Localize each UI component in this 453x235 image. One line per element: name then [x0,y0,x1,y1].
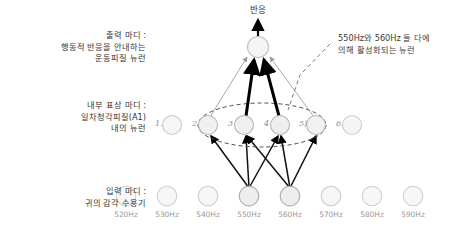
hidden-node-number-1: 1. [155,119,163,128]
input-nodes[interactable] [116,186,423,206]
hidden-layer-label-line2: 일차청각피질(A1) [0,112,146,124]
annotation-line2: 의해 활성화되는 뉴런 [338,45,453,57]
annotation-line1: 550Hz와 560Hz 둘 다에 [338,33,453,45]
input-node-560hz[interactable] [280,186,300,206]
hidden-node-number-5: 5) [299,119,307,128]
output-node[interactable] [248,37,269,58]
output-layer-label-line1: 출력 마디 : [0,30,146,42]
output-layer-label-line3: 운동피질 뉴런 [0,53,146,65]
input-node-530hz[interactable] [157,186,177,206]
frequency-label-590hz: 590Hz [396,210,430,219]
frequency-label-560hz: 560Hz [273,210,307,219]
input-node-570hz[interactable] [321,186,341,206]
edges-hidden-to-output [210,57,314,117]
input-layer-label-line2: 귀의 감각 수용기 [0,198,146,210]
input-node-540hz[interactable] [198,186,218,206]
input-node-550hz[interactable] [239,186,259,206]
input-layer-label-line1: 입력 마디 : [0,186,146,198]
hidden-node-number-4: 4 [264,119,269,128]
annotation-text: 550Hz와 560Hz 둘 다에 의해 활성화되는 뉴런 [338,33,453,56]
edges-input-to-hidden [211,136,316,188]
hidden-layer-label: 내부 표상 마디 : 일차청각피질(A1) 내의 뉴런 [0,100,146,135]
annotation-leader [288,44,330,110]
output-layer-label-line2: 행동적 반응을 안내하는 [0,42,146,54]
hidden-node-4[interactable] [271,116,290,135]
hidden-node-2[interactable] [199,116,218,135]
frequency-label-530hz: 530Hz [150,210,184,219]
output-layer-label: 출력 마디 : 행동적 반응을 안내하는 운동피질 뉴런 [0,30,146,65]
hidden-layer-label-line1: 내부 표상 마디 : [0,100,146,112]
hidden-node-1[interactable] [163,116,182,135]
hidden-node-3[interactable] [235,116,254,135]
hidden-node-number-3: 3 [228,119,233,128]
frequency-label-520hz: 520Hz [109,210,143,219]
frequency-label-550hz: 550Hz [232,210,266,219]
frequency-label-570hz: 570Hz [314,210,348,219]
hidden-layer-label-line3: 내의 뉴런 [0,123,146,135]
frequency-label-540hz: 540Hz [191,210,225,219]
input-node-590hz[interactable] [403,186,423,206]
hidden-node-6[interactable] [343,116,362,135]
response-label: 반응 [228,3,288,15]
diagram-canvas: 반응 출력 마디 : 행동적 반응을 안내하는 운동피질 뉴런 내부 표상 마디… [0,0,453,235]
hidden-node-5[interactable] [307,116,326,135]
hidden-node-number-6: 6. [336,119,344,128]
frequency-label-580hz: 580Hz [355,210,389,219]
hidden-node-number-2: 2 [192,119,197,128]
input-layer-label: 입력 마디 : 귀의 감각 수용기 [0,186,146,209]
input-node-580hz[interactable] [362,186,382,206]
